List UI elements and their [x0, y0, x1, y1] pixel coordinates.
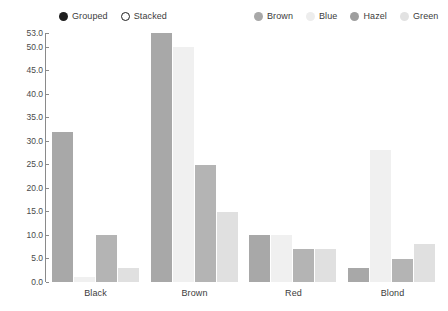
- legend-label: Green: [413, 11, 439, 21]
- legend-item-stacked[interactable]: Stacked: [121, 11, 167, 21]
- legend-swatch-icon: [350, 12, 359, 21]
- bar-black-blue[interactable]: [74, 277, 95, 282]
- y-tick-label: 20.0: [26, 184, 46, 193]
- legend-label: Stacked: [134, 11, 167, 21]
- bar-blond-brown[interactable]: [348, 268, 369, 282]
- legend-item-brown[interactable]: Brown: [254, 11, 293, 21]
- y-tick-label: 30.0: [26, 137, 46, 146]
- x-axis-labels: BlackBrownRedBlond: [46, 288, 442, 298]
- bar-blond-blue[interactable]: [370, 150, 391, 282]
- y-tick-label: 10.0: [26, 231, 46, 240]
- bar-chart: GroupedStacked BrownBlueHazelGreen 0.05.…: [0, 0, 448, 311]
- bar-red-brown[interactable]: [249, 235, 270, 282]
- legend-label: Brown: [267, 11, 293, 21]
- y-tick-label: 0.0: [31, 278, 46, 287]
- bar-blond-hazel[interactable]: [392, 259, 413, 282]
- legend-swatch-icon: [400, 12, 409, 21]
- bar-black-brown[interactable]: [52, 132, 73, 282]
- bar-brown-brown[interactable]: [151, 33, 172, 282]
- bar-brown-hazel[interactable]: [195, 165, 216, 282]
- legend-swatch-icon: [121, 12, 130, 21]
- y-tick-label: 15.0: [26, 207, 46, 216]
- bar-red-blue[interactable]: [271, 235, 292, 282]
- plot-area: 0.05.010.015.020.025.030.035.040.045.050…: [45, 33, 441, 282]
- bar-group-blond: [342, 33, 441, 282]
- legend-item-blue[interactable]: Blue: [306, 11, 337, 21]
- legend-item-green[interactable]: Green: [400, 11, 439, 21]
- x-axis-label-red: Red: [244, 288, 343, 298]
- y-tick-label: 40.0: [26, 90, 46, 99]
- bar-group-brown: [145, 33, 244, 282]
- y-tick-label: 5.0: [31, 254, 46, 263]
- bar-brown-green[interactable]: [217, 212, 238, 282]
- legend-swatch-icon: [254, 12, 263, 21]
- bar-red-green[interactable]: [315, 249, 336, 282]
- x-axis-label-brown: Brown: [145, 288, 244, 298]
- legend-series: BrownBlueHazelGreen: [254, 11, 438, 21]
- legend-label: Blue: [319, 11, 337, 21]
- y-tick-label: 53.0: [26, 29, 46, 38]
- legend-swatch-icon: [59, 12, 68, 21]
- legend-label: Hazel: [363, 11, 387, 21]
- bar-black-green[interactable]: [118, 268, 139, 282]
- bar-group-black: [46, 33, 145, 282]
- y-tick-label: 50.0: [26, 43, 46, 52]
- x-axis-label-blond: Blond: [343, 288, 442, 298]
- legend-item-grouped[interactable]: Grouped: [59, 11, 108, 21]
- legend-item-hazel[interactable]: Hazel: [350, 11, 387, 21]
- x-axis-label-black: Black: [46, 288, 145, 298]
- bar-brown-blue[interactable]: [173, 47, 194, 282]
- legend-swatch-icon: [306, 12, 315, 21]
- bar-red-hazel[interactable]: [293, 249, 314, 282]
- bar-group-red: [244, 33, 343, 282]
- bar-blond-green[interactable]: [414, 244, 435, 282]
- bar-black-hazel[interactable]: [96, 235, 117, 282]
- bar-groups: [46, 33, 441, 282]
- y-tick-label: 35.0: [26, 113, 46, 122]
- legend-mode: GroupedStacked: [59, 11, 167, 21]
- legend-label: Grouped: [72, 11, 108, 21]
- y-tick-label: 45.0: [26, 66, 46, 75]
- y-tick-label: 25.0: [26, 160, 46, 169]
